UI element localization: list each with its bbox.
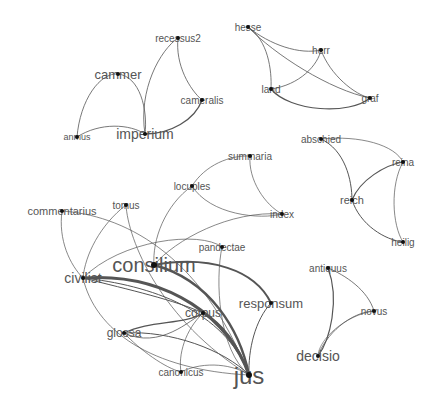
node-jus <box>246 372 252 378</box>
node-imperium <box>143 132 147 136</box>
node-canonicus <box>179 370 183 374</box>
graph-edge <box>118 74 146 134</box>
graph-edge <box>328 268 374 311</box>
node-corpus <box>201 311 205 315</box>
node-responsum <box>269 301 273 305</box>
node-commentarius <box>60 209 64 213</box>
node-index <box>280 212 284 216</box>
node-heilig <box>401 240 405 244</box>
graph-edge <box>318 268 333 356</box>
graph-edge <box>248 27 271 89</box>
node-locuples <box>190 184 194 188</box>
node-anmus <box>75 135 79 139</box>
graph-edge <box>321 139 352 200</box>
labels-layer: cammerrecessus2cameralisanmusimperiumhes… <box>27 22 414 389</box>
node-recessus2 <box>176 36 180 40</box>
graph-edge <box>154 186 192 265</box>
node-reina <box>401 160 405 164</box>
node-abschied <box>319 137 323 141</box>
graph-edge <box>77 74 118 137</box>
node-herr <box>319 48 323 52</box>
node-summaria <box>248 154 252 158</box>
graph-edge <box>394 162 403 242</box>
node-reich <box>350 198 354 202</box>
node-tomus <box>124 203 128 207</box>
node-novus <box>372 309 376 313</box>
node-cameralis <box>200 98 204 102</box>
node-cammer <box>116 72 120 76</box>
node-decisio <box>316 354 320 358</box>
node-consilium <box>151 262 157 268</box>
graph-edge <box>144 38 178 134</box>
graph-edge <box>250 156 282 214</box>
node-pandectae <box>220 245 224 249</box>
node-glossa <box>122 331 126 335</box>
graph-edge <box>178 38 202 100</box>
graph-edge <box>61 211 83 278</box>
node-land <box>269 87 273 91</box>
graph-svg: cammerrecessus2cameralisanmusimperiumhes… <box>0 0 436 405</box>
node-hesse <box>246 25 250 29</box>
node-civilist <box>81 276 85 280</box>
node-graf <box>368 96 372 100</box>
node-antiquus <box>326 266 330 270</box>
network-graph: cammerrecessus2cameralisanmusimperiumhes… <box>0 0 436 405</box>
